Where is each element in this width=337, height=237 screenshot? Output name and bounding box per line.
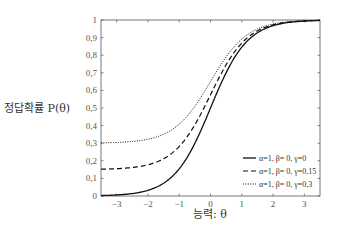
legend-label: α=1, β= 0, γ=0,3 xyxy=(259,180,312,189)
y-tick-label: 0 xyxy=(93,191,98,201)
y-tick-label: 0,3 xyxy=(86,138,98,148)
y-tick-label: 0,7 xyxy=(86,68,98,78)
x-axis-label: 능력: θ xyxy=(193,208,227,221)
curve-dashed xyxy=(101,20,320,169)
curve-dotted xyxy=(101,20,320,143)
x-tick-label: 2 xyxy=(271,199,276,209)
legend-label: α=1, β= 0, γ=0,15 xyxy=(259,167,316,176)
legend-label: α=1, β= 0, γ=0 xyxy=(259,154,306,163)
y-axis-label: 정답확률 P(θ) xyxy=(4,102,70,115)
plot-area: −3−2−10123 00,10,20,30,40,50,60,70,80,91… xyxy=(86,15,320,209)
legend: α=1, β= 0, γ=0α=1, β= 0, γ=0,15α=1, β= 0… xyxy=(243,154,316,189)
y-tick-label: 0,6 xyxy=(86,85,98,95)
y-tick-label: 0,9 xyxy=(86,33,98,43)
y-tick-label: 0,2 xyxy=(86,156,97,166)
y-tick-label: 1 xyxy=(93,15,98,25)
y-tick-label: 0,4 xyxy=(86,121,98,131)
y-tick-label: 0,5 xyxy=(86,103,98,113)
y-tick-label: 0,8 xyxy=(86,50,98,60)
y-tick-label: 0,1 xyxy=(86,173,97,183)
x-tick-label: −1 xyxy=(174,199,184,209)
x-tick-label: −2 xyxy=(143,199,153,209)
x-tick-label: 3 xyxy=(302,199,307,209)
irt-chart: −3−2−10123 00,10,20,30,40,50,60,70,80,91… xyxy=(0,0,337,237)
x-tick-label: 1 xyxy=(240,199,245,209)
x-tick-label: −3 xyxy=(112,199,122,209)
